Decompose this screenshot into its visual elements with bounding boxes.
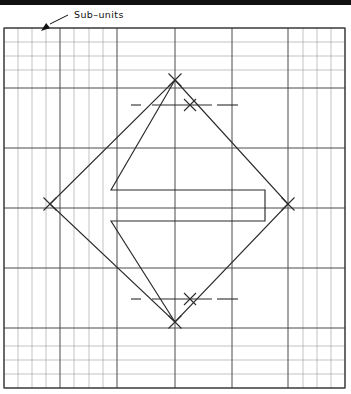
page-edge-bar xyxy=(0,0,351,5)
sub-units-label: Sub–units xyxy=(74,9,124,20)
technical-drawing-figure: Sub–units xyxy=(0,0,351,394)
drawing-canvas: Sub–units xyxy=(0,0,351,394)
